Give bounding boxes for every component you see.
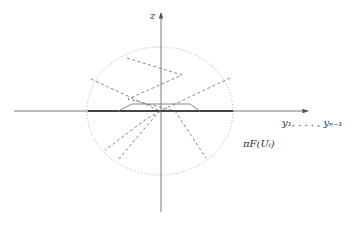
dashed-line-lower-left-2 xyxy=(118,111,160,160)
dashed-line-upper-right xyxy=(160,78,230,111)
trapezoid xyxy=(118,104,200,111)
horizontal-axis-label: y₁, . . . , yₙ₋₁ xyxy=(281,117,342,128)
region-label: πF(Uᵢ) xyxy=(242,138,275,149)
dashed-line-upper-left xyxy=(91,79,160,111)
diagram-canvas: z y₁, . . . , yₙ₋₁ πF(Uᵢ) xyxy=(0,0,354,225)
dashed-line-lower-left-1 xyxy=(105,111,160,150)
dashed-zigzag xyxy=(127,58,206,158)
z-axis-label: z xyxy=(149,10,156,21)
